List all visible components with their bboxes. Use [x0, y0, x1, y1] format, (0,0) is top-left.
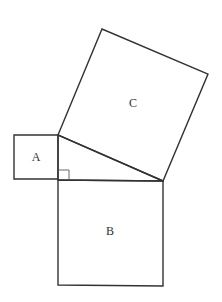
- right-angle-marker: [58, 170, 69, 180]
- label-a: A: [32, 150, 41, 164]
- label-c: C: [129, 96, 137, 110]
- pythagoras-diagram: A B C: [0, 0, 222, 302]
- label-b: B: [106, 224, 114, 238]
- right-triangle: [58, 135, 163, 181]
